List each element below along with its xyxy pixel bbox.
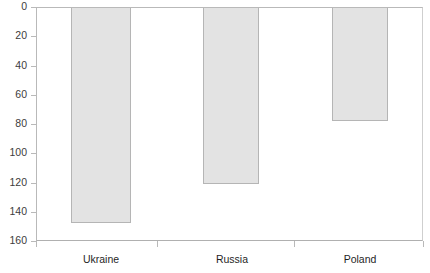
y-axis-tick-label: 140 [9, 205, 27, 218]
bar-russia [203, 8, 259, 184]
y-axis-tick-label: 20 [15, 29, 27, 42]
bar-poland [332, 8, 388, 121]
bar-chart: 020406080100120140160 UkraineRussiaPolan… [0, 0, 430, 273]
y-axis-tick-label: 80 [15, 117, 27, 130]
y-axis-tick-label: 40 [15, 59, 27, 72]
bar-ukraine [71, 8, 131, 223]
y-axis-tick-label: 60 [15, 88, 27, 101]
plot-area [36, 7, 423, 241]
x-axis-tick-mark [294, 241, 295, 247]
y-axis-tick-label: 100 [9, 146, 27, 159]
y-axis-tick-label: 0 [21, 0, 27, 13]
x-axis-tick-mark [157, 241, 158, 247]
category-label-ukraine: Ukraine [83, 252, 119, 266]
category-label-poland: Poland [344, 252, 377, 266]
x-axis-tick-mark [423, 241, 424, 247]
y-axis-tick-label: 120 [9, 176, 27, 189]
y-axis-tick-label: 160 [9, 234, 27, 247]
x-axis-tick-mark [36, 241, 37, 247]
category-label-russia: Russia [216, 252, 248, 266]
